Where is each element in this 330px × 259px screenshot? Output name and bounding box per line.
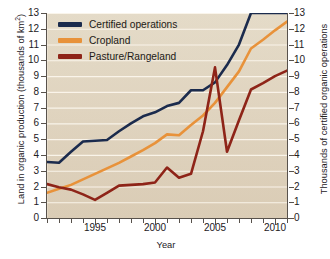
y-tickmark-right-4 — [289, 155, 294, 156]
x-tickmark-1998 — [131, 219, 132, 223]
y-tickmark-right-6 — [289, 123, 294, 124]
x-tickmark-1992 — [59, 219, 60, 223]
y-tickmark-right-1 — [289, 202, 294, 203]
legend-item-1[interactable]: Cropland — [58, 32, 177, 48]
legend-swatch-0 — [58, 22, 82, 27]
y-tickmark-right-13 — [289, 13, 294, 14]
y-tickmark-left-3 — [41, 171, 46, 172]
x-tickmark-2003 — [191, 219, 192, 223]
x-tickmark-1993 — [71, 219, 72, 223]
y-tick-right-0: 0 — [294, 213, 316, 223]
y-tick-left-7: 7 — [17, 103, 39, 113]
legend-label-2: Pasture/Rangeland — [89, 51, 176, 62]
y-tick-left-10: 10 — [17, 55, 39, 65]
y-tick-left-11: 11 — [17, 40, 39, 50]
y-tick-left-9: 9 — [17, 71, 39, 81]
legend-label-0: Certified operations — [89, 19, 177, 30]
y-tickmark-left-11 — [41, 45, 46, 46]
y-tickmark-left-1 — [41, 202, 46, 203]
x-tick-2010: 2010 — [255, 222, 295, 233]
organic-production-chart: Land in organic production (thousands of… — [0, 0, 330, 259]
y-tick-left-0: 0 — [17, 213, 39, 223]
y-tick-right-6: 6 — [294, 118, 316, 128]
y-tickmark-left-7 — [41, 108, 46, 109]
y-tickmark-left-5 — [41, 139, 46, 140]
x-tick-2000: 2000 — [135, 222, 175, 233]
y-tickmark-left-4 — [41, 155, 46, 156]
y-tickmark-right-12 — [289, 29, 294, 30]
y-axis-right-title: Thousands of certified organic operation… — [319, 4, 329, 214]
y-tickmark-right-5 — [289, 139, 294, 140]
y-tick-left-8: 8 — [17, 87, 39, 97]
y-tick-right-10: 10 — [294, 55, 316, 65]
y-tickmark-right-2 — [289, 187, 294, 188]
y-tick-right-1: 1 — [294, 197, 316, 207]
x-axis-title: Year — [44, 240, 288, 250]
y-tick-left-12: 12 — [17, 24, 39, 34]
y-tick-left-13: 13 — [17, 8, 39, 18]
y-tickmark-left-13 — [41, 13, 46, 14]
y-tickmark-right-0 — [289, 218, 294, 219]
legend: Certified operations Cropland Pasture/Ra… — [58, 16, 177, 64]
legend-swatch-1 — [58, 38, 82, 43]
y-tickmark-left-9 — [41, 76, 46, 77]
legend-item-2[interactable]: Pasture/Rangeland — [58, 48, 177, 64]
y-tick-right-13: 13 — [294, 8, 316, 18]
y-tick-right-2: 2 — [294, 182, 316, 192]
x-tickmark-2007 — [239, 219, 240, 223]
y-tick-left-6: 6 — [17, 118, 39, 128]
y-tick-left-3: 3 — [17, 166, 39, 176]
legend-swatch-2 — [58, 54, 82, 59]
left-axis-spine — [46, 13, 47, 219]
y-tickmark-right-3 — [289, 171, 294, 172]
y-tick-right-8: 8 — [294, 87, 316, 97]
y-tick-right-9: 9 — [294, 71, 316, 81]
y-tickmark-left-10 — [41, 60, 46, 61]
y-tick-right-4: 4 — [294, 150, 316, 160]
y-tick-left-5: 5 — [17, 134, 39, 144]
y-tick-right-3: 3 — [294, 166, 316, 176]
y-tickmark-left-8 — [41, 92, 46, 93]
y-tickmark-right-10 — [289, 60, 294, 61]
y-tick-right-12: 12 — [294, 24, 316, 34]
x-tick-2005: 2005 — [195, 222, 235, 233]
y-tickmark-right-11 — [289, 45, 294, 46]
x-tickmark-2002 — [179, 219, 180, 223]
y-tickmark-left-2 — [41, 187, 46, 188]
legend-label-1: Cropland — [89, 35, 130, 46]
x-tick-1995: 1995 — [75, 222, 115, 233]
x-tickmark-2008 — [251, 219, 252, 223]
legend-item-0[interactable]: Certified operations — [58, 16, 177, 32]
x-tickmark-1991 — [47, 219, 48, 223]
right-axis-spine — [287, 13, 288, 219]
y-tickmark-left-12 — [41, 29, 46, 30]
y-tickmark-right-8 — [289, 92, 294, 93]
y-tickmark-left-0 — [41, 218, 46, 219]
y-tick-right-5: 5 — [294, 134, 316, 144]
y-tick-right-7: 7 — [294, 103, 316, 113]
y-tickmark-right-9 — [289, 76, 294, 77]
x-tickmark-1997 — [119, 219, 120, 223]
y-tickmark-right-7 — [289, 108, 294, 109]
y-tick-left-1: 1 — [17, 197, 39, 207]
y-tick-right-11: 11 — [294, 40, 316, 50]
y-tick-left-2: 2 — [17, 182, 39, 192]
y-tickmark-left-6 — [41, 123, 46, 124]
y-tick-left-4: 4 — [17, 150, 39, 160]
